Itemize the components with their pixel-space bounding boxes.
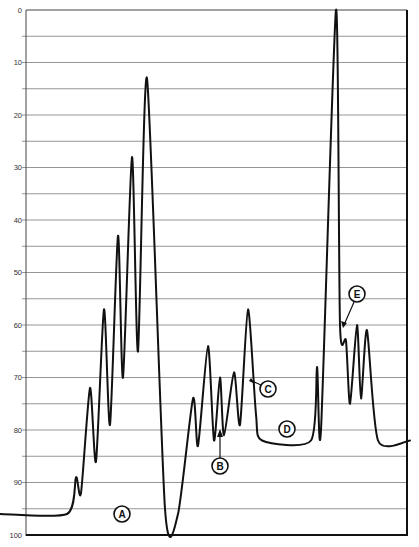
- callout-d-label: D: [283, 424, 290, 435]
- callout-d: D: [279, 421, 295, 437]
- callout-c-label: C: [264, 384, 271, 395]
- y-tick-90: 90: [14, 478, 22, 487]
- callout-a: A: [114, 506, 130, 522]
- y-tick-80: 80: [14, 426, 22, 435]
- y-tick-50: 50: [14, 268, 22, 277]
- y-tick-20: 20: [14, 111, 22, 120]
- y-tick-10: 10: [14, 58, 22, 67]
- callout-e: E: [341, 286, 365, 328]
- y-tick-70: 70: [14, 373, 22, 382]
- y-tick-60: 60: [14, 321, 22, 330]
- callout-a-label: A: [118, 509, 125, 520]
- callout-e-label: E: [354, 289, 361, 300]
- callout-c: C: [249, 378, 276, 397]
- y-tick-40: 40: [14, 216, 22, 225]
- y-tick-labels: 0 10 20 30 40 50 60 70 80 90 100: [9, 6, 22, 540]
- y-tick-30: 30: [14, 163, 22, 172]
- y-tick-0: 0: [18, 6, 22, 15]
- arrow-down-icon: [341, 321, 347, 328]
- chromatogram-chart: 0 10 20 30 40 50 60 70 80 90 100 A B C D…: [0, 0, 419, 547]
- y-tick-100: 100: [9, 531, 22, 540]
- callout-b-label: B: [216, 461, 223, 472]
